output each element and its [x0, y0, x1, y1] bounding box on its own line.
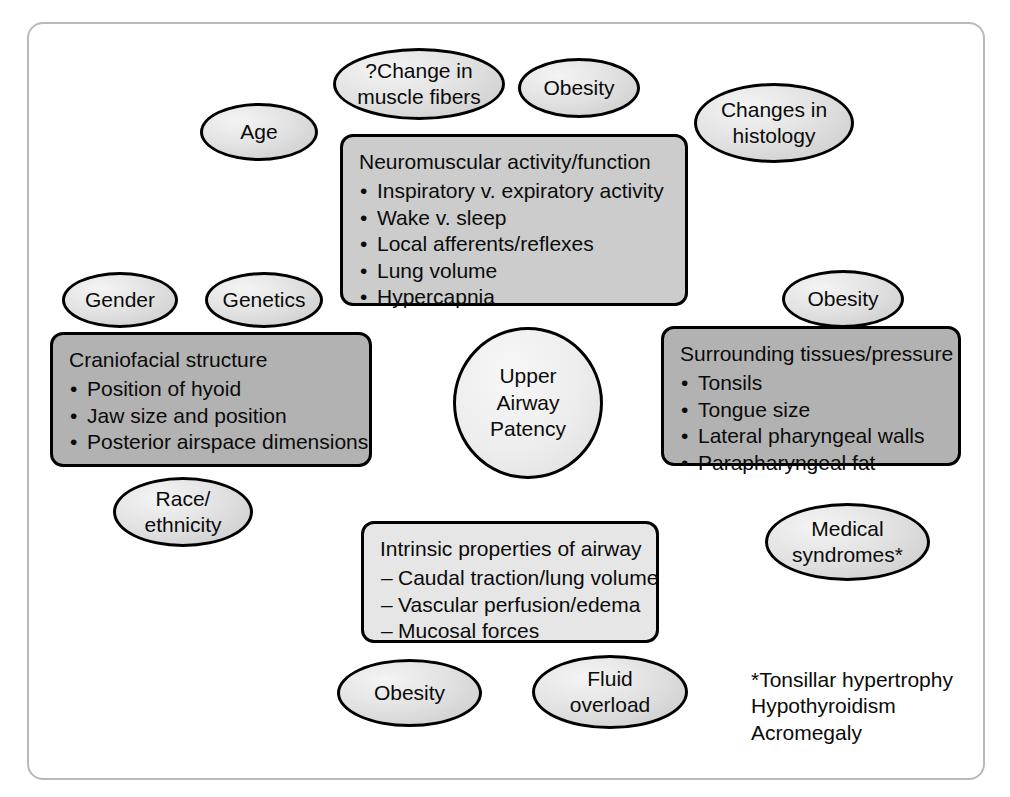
box-list-item: •Parapharyngeal fat [680, 450, 942, 476]
box-list-item: •Posterior airspace dimensions [69, 429, 353, 455]
box-list-item: •Tongue size [680, 397, 942, 423]
node-craniofacial-structure-box[interactable]: Craniofacial structure •Position of hyoi… [50, 332, 372, 467]
node-label: Genetics [219, 287, 310, 313]
node-label-line: ?Change in [365, 59, 472, 82]
box-list-item: •Lung volume [359, 258, 669, 284]
box-list-item: •Local afferents/reflexes [359, 231, 669, 257]
bullet-marker: • [70, 376, 77, 402]
node-label-line: Medical [811, 517, 883, 540]
bullet-marker: • [70, 403, 77, 429]
bullet-marker: • [360, 205, 367, 231]
bullet-marker: • [360, 231, 367, 257]
box-item-label: Mucosal forces [398, 619, 539, 642]
box-title: Intrinsic properties of airway [380, 536, 640, 562]
node-label-line: syndromes* [792, 543, 903, 566]
box-item-label: Hypercapnia [377, 285, 495, 308]
bullet-marker: • [681, 450, 688, 476]
dash-marker: – [381, 618, 393, 644]
box-item-label: Tonsils [698, 371, 762, 394]
node-fluid-overload[interactable]: Fluid overload [532, 655, 688, 729]
node-label: Obesity [370, 680, 449, 706]
node-genetics[interactable]: Genetics [205, 272, 323, 328]
box-list-item: –Caudal traction/lung volume [380, 565, 640, 591]
node-gender[interactable]: Gender [62, 272, 178, 328]
footnote-line: Hypothyroidism [751, 693, 981, 719]
dash-marker: – [381, 565, 393, 591]
box-item-label: Inspiratory v. expiratory activity [377, 179, 664, 202]
node-obesity-top[interactable]: Obesity [518, 58, 640, 118]
box-list-item: •Wake v. sleep [359, 205, 669, 231]
box-item-label: Caudal traction/lung volume [398, 566, 658, 589]
box-item-list: •Tonsils •Tongue size •Lateral pharyngea… [680, 370, 942, 476]
center-label-line: Upper [499, 363, 556, 389]
bullet-marker: • [681, 370, 688, 396]
box-title: Neuromuscular activity/function [359, 149, 669, 175]
box-item-label: Parapharyngeal fat [698, 451, 875, 474]
box-item-label: Wake v. sleep [377, 206, 507, 229]
box-item-label: Tongue size [698, 398, 810, 421]
diagram-canvas: ?Change in muscle fibers Obesity Changes… [0, 0, 1010, 797]
node-label-line: Changes in [721, 98, 827, 121]
node-label-line: ethnicity [144, 513, 221, 536]
box-item-list: •Position of hyoid •Jaw size and positio… [69, 376, 353, 455]
box-item-label: Posterior airspace dimensions [87, 430, 368, 453]
bullet-marker: • [681, 397, 688, 423]
bullet-marker: • [681, 423, 688, 449]
node-neuromuscular-activity-box[interactable]: Neuromuscular activity/function •Inspira… [340, 134, 688, 306]
dash-marker: – [381, 592, 393, 618]
node-surrounding-tissues-box[interactable]: Surrounding tissues/pressure •Tonsils •T… [661, 326, 961, 466]
box-list-item: –Vascular perfusion/edema [380, 592, 640, 618]
box-list-item: •Position of hyoid [69, 376, 353, 402]
center-label-line: Patency [490, 416, 566, 442]
node-obesity-bottom[interactable]: Obesity [337, 659, 482, 727]
box-item-list: •Inspiratory v. expiratory activity •Wak… [359, 178, 669, 310]
node-changes-in-histology[interactable]: Changes in histology [694, 83, 854, 163]
box-list-item: •Inspiratory v. expiratory activity [359, 178, 669, 204]
bullet-marker: • [360, 284, 367, 310]
node-upper-airway-patency[interactable]: Upper Airway Patency [453, 327, 603, 479]
box-title: Craniofacial structure [69, 347, 353, 373]
node-change-in-muscle-fibers[interactable]: ?Change in muscle fibers [333, 48, 505, 120]
node-label: Age [236, 119, 281, 145]
node-label-line: Fluid [587, 667, 633, 690]
node-obesity-right[interactable]: Obesity [782, 270, 904, 328]
node-label-line: Race/ [156, 487, 211, 510]
node-label: Gender [81, 287, 159, 313]
box-item-label: Lung volume [377, 259, 497, 282]
box-item-label: Position of hyoid [87, 377, 241, 400]
node-label-line: overload [570, 693, 651, 716]
box-item-list: –Caudal traction/lung volume –Vascular p… [380, 565, 640, 644]
node-label: Obesity [539, 75, 618, 101]
box-list-item: •Tonsils [680, 370, 942, 396]
box-item-label: Jaw size and position [87, 404, 287, 427]
box-item-label: Lateral pharyngeal walls [698, 424, 924, 447]
box-list-item: •Lateral pharyngeal walls [680, 423, 942, 449]
node-label-line: muscle fibers [357, 85, 481, 108]
footnote-line: Acromegaly [751, 720, 981, 746]
bullet-marker: • [70, 429, 77, 455]
node-medical-syndromes[interactable]: Medical syndromes* [765, 503, 930, 581]
node-age[interactable]: Age [200, 103, 318, 161]
box-item-label: Local afferents/reflexes [377, 232, 594, 255]
bullet-marker: • [360, 178, 367, 204]
node-intrinsic-properties-box[interactable]: Intrinsic properties of airway –Caudal t… [361, 521, 659, 643]
node-race-ethnicity[interactable]: Race/ ethnicity [113, 477, 253, 547]
medical-syndromes-footnote: *Tonsillar hypertrophy Hypothyroidism Ac… [751, 667, 981, 746]
bullet-marker: • [360, 258, 367, 284]
box-list-item: •Jaw size and position [69, 403, 353, 429]
box-item-label: Vascular perfusion/edema [398, 593, 640, 616]
center-label-line: Airway [496, 390, 559, 416]
box-list-item: •Hypercapnia [359, 284, 669, 310]
node-label-line: histology [733, 124, 816, 147]
box-list-item: –Mucosal forces [380, 618, 640, 644]
box-title: Surrounding tissues/pressure [680, 341, 942, 367]
footnote-line: *Tonsillar hypertrophy [751, 667, 981, 693]
node-label: Obesity [803, 286, 882, 312]
